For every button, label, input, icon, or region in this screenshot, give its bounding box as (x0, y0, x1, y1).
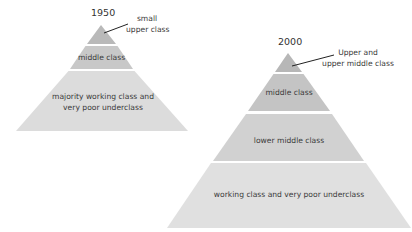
label-1950-bottom-line2: very poor underclass (36, 102, 170, 113)
tier-1950-upper (87, 25, 116, 44)
callout-1950: small upper class (126, 13, 168, 35)
callout-2000: Upper and upper middle class (321, 47, 395, 69)
label-2000-lower-middle: lower middle class (240, 135, 338, 146)
label-1950-bottom-line1: majority working class and (36, 91, 170, 102)
year-2000: 2000 (278, 36, 302, 47)
label-2000-middle: middle class (248, 87, 330, 98)
callout-2000-line2: upper middle class (321, 58, 395, 69)
label-2000-bottom: working class and very poor underclass (210, 189, 368, 200)
label-1950-middle: middle class (70, 52, 133, 63)
tier-2000-upper (275, 53, 302, 72)
callout-2000-line1: Upper and (321, 47, 395, 58)
callout-line-1950 (104, 24, 128, 33)
label-1950-bottom: majority working class and very poor und… (36, 91, 170, 113)
callout-1950-line1: small (126, 13, 168, 24)
callout-1950-line2: upper class (126, 24, 168, 35)
year-1950: 1950 (91, 7, 115, 18)
